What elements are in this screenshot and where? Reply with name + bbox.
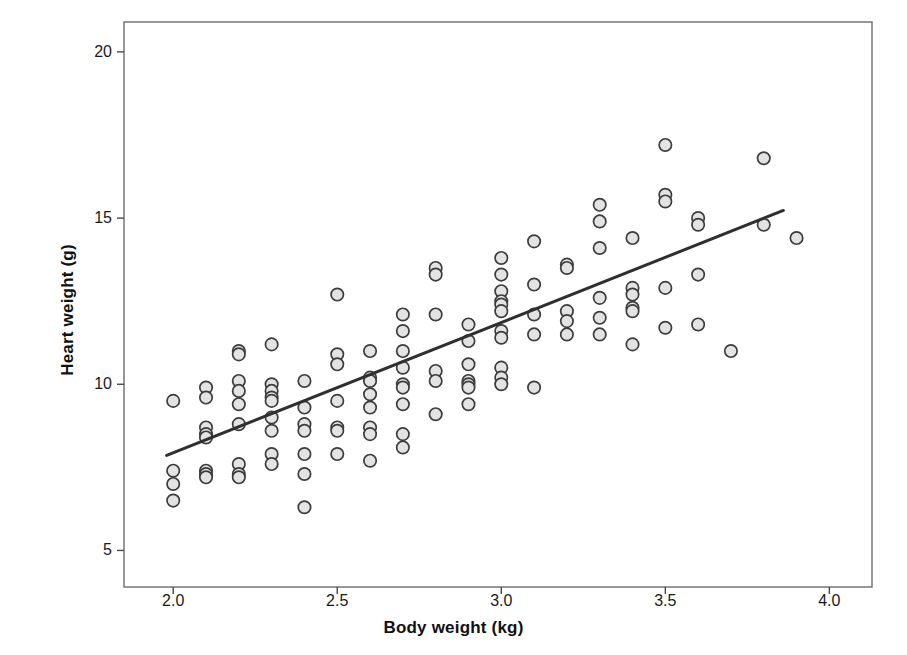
data-point bbox=[397, 308, 409, 320]
data-point bbox=[364, 345, 376, 357]
data-point bbox=[495, 252, 507, 264]
data-point bbox=[626, 232, 638, 244]
x-tick-label: 3.0 bbox=[490, 592, 512, 610]
y-tick-label: 20 bbox=[80, 43, 112, 61]
data-point bbox=[397, 345, 409, 357]
data-point bbox=[265, 458, 277, 470]
data-point bbox=[790, 232, 802, 244]
data-point bbox=[495, 305, 507, 317]
x-tick-label: 4.0 bbox=[818, 592, 840, 610]
data-point bbox=[495, 268, 507, 280]
data-point bbox=[594, 242, 606, 254]
data-point bbox=[462, 381, 474, 393]
data-point bbox=[561, 262, 573, 274]
data-point bbox=[528, 381, 540, 393]
data-point bbox=[265, 338, 277, 350]
data-point bbox=[692, 219, 704, 231]
data-point bbox=[528, 235, 540, 247]
data-point bbox=[626, 305, 638, 317]
data-point bbox=[429, 308, 441, 320]
data-point bbox=[561, 315, 573, 327]
data-point bbox=[233, 348, 245, 360]
data-point bbox=[725, 345, 737, 357]
data-point bbox=[594, 292, 606, 304]
data-point bbox=[626, 288, 638, 300]
data-point bbox=[331, 395, 343, 407]
data-point bbox=[233, 398, 245, 410]
data-point bbox=[594, 199, 606, 211]
data-point bbox=[626, 338, 638, 350]
y-axis-title-wrapper: Heart weight (g) bbox=[58, 10, 78, 610]
data-point bbox=[594, 312, 606, 324]
data-point bbox=[495, 332, 507, 344]
data-point bbox=[758, 152, 770, 164]
data-point bbox=[429, 375, 441, 387]
data-point bbox=[364, 388, 376, 400]
y-tick-label: 5 bbox=[80, 541, 112, 559]
data-point bbox=[594, 328, 606, 340]
data-point bbox=[167, 494, 179, 506]
y-axis-title: Heart weight (g) bbox=[58, 244, 77, 376]
data-point bbox=[659, 195, 671, 207]
data-point bbox=[265, 395, 277, 407]
data-point bbox=[200, 391, 212, 403]
data-point bbox=[495, 378, 507, 390]
data-point bbox=[659, 282, 671, 294]
data-point bbox=[397, 325, 409, 337]
data-point bbox=[331, 448, 343, 460]
scatter-plot-figure: Body weight (kg) Heart weight (g) 2.02.5… bbox=[0, 0, 907, 655]
data-point bbox=[298, 501, 310, 513]
data-point bbox=[397, 428, 409, 440]
data-point bbox=[167, 478, 179, 490]
data-point bbox=[364, 455, 376, 467]
data-point bbox=[429, 268, 441, 280]
data-point bbox=[692, 318, 704, 330]
y-tick-label: 10 bbox=[80, 375, 112, 393]
data-point bbox=[331, 425, 343, 437]
data-point bbox=[298, 448, 310, 460]
data-point bbox=[528, 278, 540, 290]
data-point bbox=[298, 375, 310, 387]
data-point bbox=[331, 288, 343, 300]
data-point bbox=[594, 215, 606, 227]
x-axis-title: Body weight (kg) bbox=[0, 618, 907, 638]
x-tick-label: 3.5 bbox=[654, 592, 676, 610]
plot-canvas bbox=[0, 0, 907, 655]
x-tick-label: 2.5 bbox=[326, 592, 348, 610]
data-point bbox=[298, 425, 310, 437]
data-point bbox=[462, 318, 474, 330]
data-point bbox=[233, 385, 245, 397]
data-point bbox=[298, 468, 310, 480]
data-point bbox=[561, 328, 573, 340]
data-point bbox=[331, 358, 343, 370]
data-point bbox=[397, 381, 409, 393]
data-point bbox=[692, 268, 704, 280]
data-point bbox=[429, 408, 441, 420]
data-point bbox=[200, 471, 212, 483]
data-point bbox=[364, 428, 376, 440]
data-point bbox=[528, 328, 540, 340]
data-point bbox=[659, 139, 671, 151]
x-tick-label: 2.0 bbox=[162, 592, 184, 610]
data-point bbox=[462, 358, 474, 370]
data-point bbox=[462, 398, 474, 410]
data-point bbox=[167, 464, 179, 476]
data-point bbox=[265, 425, 277, 437]
data-point bbox=[397, 398, 409, 410]
data-point bbox=[233, 471, 245, 483]
data-point bbox=[364, 401, 376, 413]
y-tick-label: 15 bbox=[80, 209, 112, 227]
data-point bbox=[659, 322, 671, 334]
data-point bbox=[167, 395, 179, 407]
data-point bbox=[397, 441, 409, 453]
